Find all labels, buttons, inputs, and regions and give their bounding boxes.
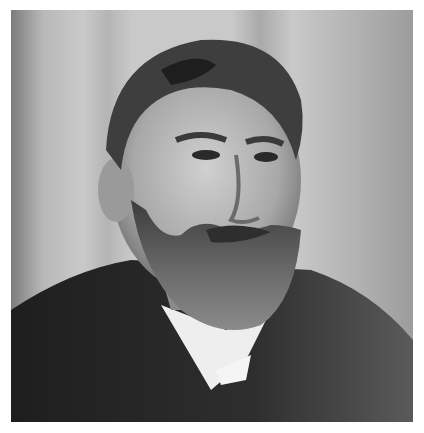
portrait-photo [11, 10, 413, 422]
portrait-illustration [11, 10, 413, 422]
